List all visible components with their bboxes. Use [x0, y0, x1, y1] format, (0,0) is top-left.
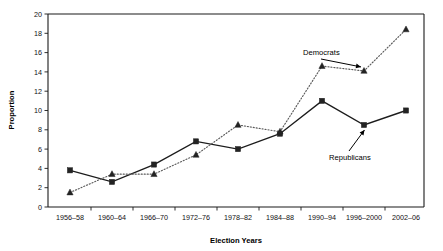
- data-point-republicans-0: [67, 168, 72, 173]
- data-point-republicans-7: [361, 122, 366, 127]
- chart-annotations: DemocratsRepublicans: [303, 48, 371, 162]
- y-axis-title: Proportion: [7, 90, 16, 129]
- data-point-democrats-4: [235, 122, 241, 128]
- democrats-arrow-head: [356, 64, 361, 69]
- y-tick-label: 20: [34, 10, 42, 19]
- y-tick-label: 14: [34, 68, 42, 77]
- republicans-arrow-head: [360, 130, 365, 135]
- series-republicans: [67, 98, 408, 184]
- x-axis-ticks: 1956–581960–641966–701972–761978–821984–…: [56, 207, 420, 222]
- series-democrats: [67, 26, 409, 195]
- data-point-democrats-6: [319, 63, 325, 69]
- series-line-democrats: [70, 29, 406, 192]
- x-tick-label: 1996–2000: [346, 213, 382, 222]
- y-axis-ticks: 02468101214161820: [34, 10, 48, 212]
- x-tick-label: 1984–88: [266, 213, 294, 222]
- y-tick-label: 18: [34, 29, 42, 38]
- x-tick-label: 1960–64: [98, 213, 126, 222]
- chart-series-group: [67, 26, 409, 195]
- chart-container: 02468101214161820 1956–581960–641966–701…: [0, 0, 443, 251]
- data-point-republicans-2: [151, 162, 156, 167]
- data-point-republicans-4: [235, 147, 240, 152]
- x-tick-label: 1966–70: [140, 213, 168, 222]
- y-tick-label: 10: [34, 106, 42, 115]
- x-tick-label: 1956–58: [56, 213, 84, 222]
- line-chart: 02468101214161820 1956–581960–641966–701…: [0, 0, 443, 251]
- data-point-democrats-8: [403, 26, 409, 32]
- x-tick-label: 2002–06: [392, 213, 420, 222]
- x-tick-label: 1978–82: [224, 213, 252, 222]
- y-tick-label: 2: [38, 183, 42, 192]
- data-point-republicans-1: [109, 179, 114, 184]
- annotation-label-republicans: Republicans: [329, 153, 371, 162]
- y-tick-label: 6: [38, 145, 42, 154]
- democrats-arrow-shaft: [321, 59, 361, 67]
- data-point-democrats-3: [193, 151, 199, 157]
- y-tick-label: 12: [34, 87, 42, 96]
- x-tick-label: 1990–94: [308, 213, 336, 222]
- data-point-republicans-3: [193, 139, 198, 144]
- y-tick-label: 0: [38, 203, 42, 212]
- x-tick-label: 1972–76: [182, 213, 210, 222]
- y-tick-label: 8: [38, 125, 42, 134]
- data-point-republicans-8: [403, 108, 408, 113]
- y-tick-label: 4: [38, 164, 42, 173]
- data-point-republicans-6: [319, 98, 324, 103]
- annotation-label-democrats: Democrats: [303, 48, 340, 57]
- y-tick-label: 16: [34, 48, 42, 57]
- x-axis-title: Election Years: [210, 236, 262, 245]
- data-point-democrats-0: [67, 189, 73, 195]
